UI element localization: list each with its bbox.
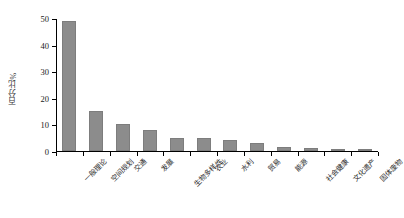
x-tick	[83, 152, 84, 156]
y-tick	[52, 99, 56, 100]
y-tick	[52, 46, 56, 47]
x-tick	[378, 152, 379, 156]
x-tick	[351, 152, 352, 156]
y-tick-label: 40	[41, 41, 50, 51]
bar	[197, 138, 211, 151]
y-tick	[52, 72, 56, 73]
y-tick-label: 30	[41, 67, 50, 77]
x-tick	[298, 152, 299, 156]
y-tick	[52, 19, 56, 20]
y-tick-label: 0	[45, 147, 49, 157]
y-axis-line	[56, 19, 57, 152]
bar	[250, 143, 264, 151]
x-tick	[110, 152, 111, 156]
y-tick-label: 10	[41, 120, 50, 130]
bar	[62, 21, 76, 151]
bar	[304, 148, 318, 151]
x-tick	[324, 152, 325, 156]
x-tick	[137, 152, 138, 156]
bar	[358, 149, 372, 151]
x-tick-label: 一般理论	[82, 156, 109, 183]
plot-area	[56, 19, 378, 152]
x-tick-label: 水利	[239, 156, 256, 173]
x-tick-label: 空间规划	[109, 156, 136, 183]
x-tick	[163, 152, 164, 156]
y-tick-label: 20	[41, 94, 50, 104]
bar	[89, 111, 103, 151]
bar	[331, 149, 345, 151]
x-tick	[271, 152, 272, 156]
x-tick-label: 贸易	[265, 156, 282, 173]
x-tick-label: 文化遗产	[350, 156, 377, 183]
bar	[170, 138, 184, 151]
x-tick	[56, 152, 57, 156]
x-tick-label: 能源	[292, 156, 309, 173]
y-tick	[52, 125, 56, 126]
bar	[143, 130, 157, 151]
x-tick	[244, 152, 245, 156]
x-tick-label: 发展	[158, 156, 175, 173]
bar	[223, 140, 237, 151]
x-tick-label: 固体废物	[377, 156, 404, 183]
x-tick-label: 交通	[131, 156, 148, 173]
bar	[116, 124, 130, 151]
x-tick-label: 社会健康	[323, 156, 350, 183]
y-tick-label: 50	[41, 14, 50, 24]
bar	[277, 147, 291, 151]
y-axis-title: 百分比%	[6, 46, 20, 132]
x-tick	[190, 152, 191, 156]
